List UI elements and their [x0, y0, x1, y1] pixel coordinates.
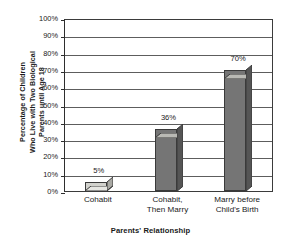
y-axis-tick-mark	[61, 141, 65, 142]
y-axis-tick-mark	[61, 89, 65, 90]
bar-front-face	[224, 70, 246, 191]
bar-top-face	[155, 124, 177, 129]
y-axis-tick-label: 10%	[32, 171, 58, 179]
y-axis-tick-labels: 100%90%80%70%60%50%40%30%20%10%0%	[32, 0, 58, 243]
y-axis-tick-label: 30%	[32, 136, 58, 144]
y-axis-tick-mark	[61, 72, 65, 73]
y-axis-tick-mark	[61, 107, 65, 108]
plot-area: 5%36%70%	[64, 19, 273, 192]
x-axis-category-label-line: Child's Birth	[194, 205, 280, 215]
x-axis-title: Parents' Relationship	[0, 226, 301, 235]
y-axis-title-line-1: Percentage of Children	[18, 15, 28, 190]
bar-top-face	[85, 177, 107, 182]
y-axis-tick-mark	[61, 37, 65, 38]
bar	[155, 124, 177, 191]
y-axis-tick-mark	[61, 55, 65, 56]
bar-side-face	[107, 182, 113, 191]
y-axis-tick-label: 40%	[32, 119, 58, 127]
y-axis-tick-mark	[61, 193, 65, 194]
y-axis-tick-mark	[61, 20, 65, 21]
y-axis-tick-label: 70%	[32, 67, 58, 75]
bar	[224, 65, 246, 191]
y-axis-tick-mark	[61, 158, 65, 159]
bar-side-face	[177, 129, 183, 191]
bar-top-face	[224, 65, 246, 70]
y-axis-tick-mark	[61, 124, 65, 125]
y-axis-tick-label: 90%	[32, 32, 58, 40]
bar-chart: Percentage of Children Who Live with Two…	[0, 0, 301, 243]
x-axis-category-label: Marry beforeChild's Birth	[194, 195, 280, 214]
bar-value-label: 5%	[69, 166, 129, 175]
y-axis-tick-label: 50%	[32, 102, 58, 110]
bar-value-label: 36%	[139, 113, 199, 122]
y-axis-tick-mark	[61, 176, 65, 177]
gridline	[65, 37, 272, 38]
y-axis-tick-label: 80%	[32, 50, 58, 58]
x-axis-category-label-line: Marry before	[194, 195, 280, 205]
bar-front-face	[155, 129, 177, 191]
y-axis-tick-label: 60%	[32, 84, 58, 92]
bar-side-face	[246, 70, 252, 191]
bar-value-label: 70%	[208, 54, 268, 63]
y-axis-tick-label: 100%	[32, 15, 58, 23]
bar	[85, 177, 107, 191]
y-axis-tick-label: 20%	[32, 153, 58, 161]
